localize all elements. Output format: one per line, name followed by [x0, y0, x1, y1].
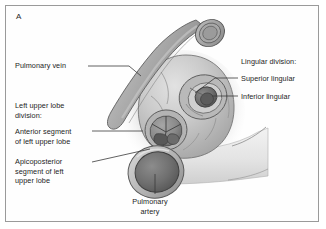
label-pulmonary-artery: Pulmonary artery [115, 197, 185, 216]
label-inferior-lingular: Inferior lingular [241, 92, 290, 102]
anterior-subsegment [167, 134, 179, 145]
panel-letter: A [16, 12, 22, 21]
label-left-upper-lobe-division: Left upper lobe division: [15, 101, 64, 120]
leader-pulmonary-vein [88, 66, 141, 76]
label-lingular-division: Lingular division: [241, 57, 296, 67]
apicoposterior-subsegment [154, 134, 168, 146]
label-pulmonary-vein: Pulmonary vein [15, 61, 66, 71]
figure-panel: A Pulmonary vein Left upper lobe divisio… [0, 0, 326, 229]
label-apicoposterior-segment: Apicoposterior segment of left upper lob… [15, 157, 64, 186]
label-anterior-segment: Anterior segment of left upper lobe [15, 127, 71, 146]
label-superior-lingular: Superior lingular [241, 74, 295, 84]
